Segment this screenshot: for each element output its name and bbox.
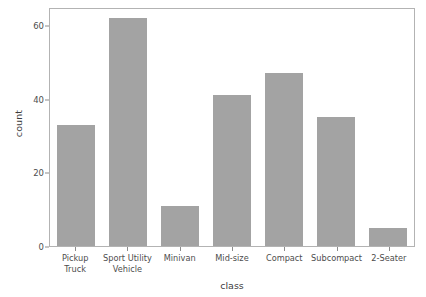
x-axis-tick-mark (284, 247, 285, 251)
bar[interactable] (57, 125, 95, 246)
x-axis-tick-label: 2-Seater (363, 253, 415, 281)
bar[interactable] (369, 228, 407, 246)
x-axis-tick-label: Pickup Truck (49, 253, 101, 281)
bar-series (50, 9, 414, 246)
x-axis-tick-labels: Pickup TruckSport Utility VehicleMinivan… (49, 253, 415, 281)
bar[interactable] (161, 206, 199, 246)
bar[interactable] (109, 18, 147, 246)
plot-panel (49, 8, 415, 247)
x-axis-tick-mark (389, 247, 390, 251)
bar-slot (154, 9, 206, 246)
y-axis-tick-label: 40 (33, 95, 44, 105)
y-axis-tick-label: 60 (33, 21, 44, 31)
bar[interactable] (213, 95, 251, 246)
x-axis-tick-mark (127, 247, 128, 251)
bar-slot (310, 9, 362, 246)
y-axis-tick-labels: 0204060 (26, 0, 44, 247)
x-axis-tick-label: Subcompact (310, 253, 362, 281)
x-axis-tick-mark (337, 247, 338, 251)
bar[interactable] (265, 73, 303, 246)
bar-slot (258, 9, 310, 246)
y-axis-title-text: count (14, 110, 25, 137)
y-axis-tick-label: 20 (33, 168, 44, 178)
x-axis-title: class (49, 280, 415, 291)
bar-slot (102, 9, 154, 246)
x-axis-tick-mark (75, 247, 76, 251)
x-axis-tick-marks (49, 247, 415, 252)
y-axis-tick-label: 0 (39, 242, 44, 252)
bar-slot (50, 9, 102, 246)
x-axis-tick-label: Minivan (154, 253, 206, 281)
bar-chart-figure: count 0204060 Pickup TruckSport Utility … (0, 0, 426, 297)
bar[interactable] (317, 117, 355, 246)
x-axis-tick-label: Sport Utility Vehicle (101, 253, 153, 281)
x-axis-tick-mark (232, 247, 233, 251)
x-axis-tick-mark (180, 247, 181, 251)
x-axis-tick-label: Mid-size (206, 253, 258, 281)
plot-area (50, 9, 414, 246)
bar-slot (362, 9, 414, 246)
bar-slot (206, 9, 258, 246)
x-axis-tick-label: Compact (258, 253, 310, 281)
